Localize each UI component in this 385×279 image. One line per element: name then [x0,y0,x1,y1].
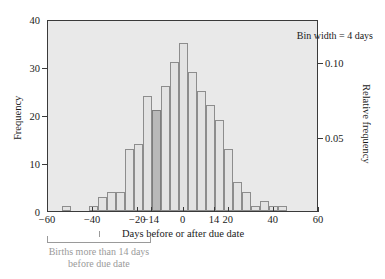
secondary-y-axis-tick [318,138,323,139]
x-axis-tick [318,207,319,212]
histogram-bar [161,86,170,211]
x-axis-tick [137,207,138,212]
x-axis-tick-label: 14 [209,214,220,225]
y-axis-tick [42,116,47,117]
histogram-bar [206,105,215,211]
x-axis-tick [183,207,184,212]
y-axis-tick [42,164,47,165]
histogram-bar [152,110,161,211]
secondary-y-axis-tick-label: 0.05 [325,132,343,143]
bracket-note-line1: Births more than 14 days [49,246,150,258]
x-axis-tick-label: 20 [222,214,233,225]
histogram-bar [188,72,197,211]
y-axis-tick-label: 10 [20,159,40,170]
y-axis-title: Frequency [12,96,23,140]
x-axis-tick-label: −60 [39,214,55,225]
x-axis-tick-label: 0 [180,214,185,225]
histogram-bar [233,182,242,211]
bracket-note-line2: before due date [49,258,150,270]
x-axis-tick [47,207,48,212]
histogram-bar [107,192,116,211]
histogram-bar [170,62,179,211]
bracket-note: Births more than 14 days before due date [49,246,150,270]
histogram-bar [125,149,134,211]
plot-area [47,20,318,212]
histogram-bar [269,206,278,211]
x-axis-tick [151,207,152,212]
histogram-bar [179,43,188,211]
secondary-y-axis-title: Relative frequency [361,84,372,164]
x-axis-tick-label: 60 [313,214,324,225]
secondary-y-axis-tick-label: 0.10 [325,58,343,69]
y-axis-tick-label: 20 [20,111,40,122]
x-axis-tick [214,207,215,212]
annotation-bracket [47,236,151,243]
x-axis-tick-label: −40 [84,214,100,225]
y-axis-tick-label: 0 [20,207,40,218]
histogram-bar [251,206,260,211]
y-axis-tick-label: 30 [20,63,40,74]
histogram-bar [197,91,206,211]
x-axis-tick-label: 40 [268,214,279,225]
histogram-bar [215,120,224,211]
bin-width-note: Bin width = 4 days [297,30,373,41]
histogram-bar [224,149,233,211]
x-axis-tick [228,207,229,212]
secondary-y-axis-tick [318,63,323,64]
histogram-bar [116,192,125,211]
x-axis-tick-label: −14 [143,214,159,225]
histogram-bar [278,206,287,211]
y-axis-tick-label: 40 [20,15,40,26]
annotation-bracket-stem [99,231,100,237]
chart-canvas: −60−40−20−140142040600102030400.050.10 F… [0,0,385,279]
histogram-bar [242,192,251,211]
histogram-bar [89,206,98,211]
x-axis-tick [273,207,274,212]
histogram-bar [143,96,152,211]
histogram-bar [134,144,143,211]
histogram-bars [48,21,317,211]
y-axis-tick [42,68,47,69]
histogram-bar [98,197,107,211]
histogram-bar [62,206,71,211]
histogram-bar [260,201,269,211]
x-axis-tick [92,207,93,212]
